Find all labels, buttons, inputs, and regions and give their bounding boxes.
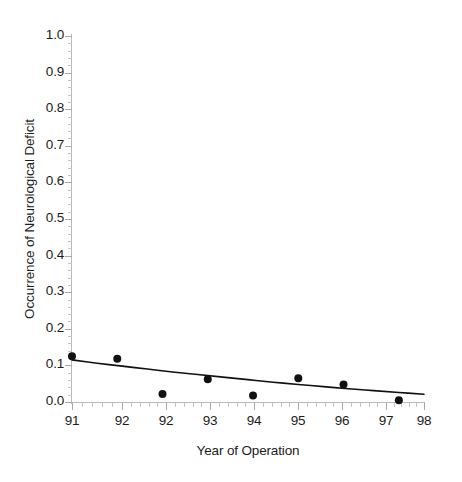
x-tick-minor [149,403,150,407]
y-tick-major [65,329,72,330]
x-tick-minor [289,403,290,407]
y-tick-major [65,402,72,403]
data-point [159,390,167,398]
x-tick-minor [193,403,194,407]
y-tick-major [65,256,72,257]
x-tick-minor [82,403,83,407]
data-point [249,391,257,399]
x-tick-minor [416,403,417,407]
x-tick-label: 92 [102,413,142,428]
x-tick-minor [131,403,132,407]
y-tick-major [65,365,72,366]
x-tick-minor [333,403,334,407]
data-point [68,352,76,360]
y-tick-major [65,109,72,110]
x-tick-minor [360,403,361,407]
data-point [294,374,302,382]
x-tick-minor [369,403,370,407]
x-tick-minor [140,403,141,407]
x-tick-minor [394,403,395,407]
chart-figure: 0.00.10.20.30.40.50.60.70.80.91.0 919292… [0,0,462,482]
x-tick-minor [401,403,402,407]
x-tick-minor [351,403,352,407]
x-tick-minor [409,403,410,407]
x-tick-minor [112,403,113,407]
x-tick-minor [263,403,264,407]
x-tick-major [72,403,73,410]
data-point [204,375,212,383]
x-tick-major [122,403,123,410]
x-tick-minor [102,403,103,407]
x-tick-label: 98 [404,413,444,428]
x-tick-minor [245,403,246,407]
plot-area [72,36,424,402]
x-tick-minor [237,403,238,407]
fitted-trend-curve [72,360,424,394]
x-tick-major [166,403,167,410]
x-tick-minor [92,403,93,407]
x-tick-label: 97 [366,413,406,428]
x-tick-minor [184,403,185,407]
y-tick-major [65,292,72,293]
x-tick-major [424,403,425,410]
y-tick-major [65,182,72,183]
y-axis-title: Occurrence of Neurological Deficit [22,36,44,402]
data-point [340,380,348,388]
x-tick-label: 96 [322,413,362,428]
x-tick-minor [201,403,202,407]
y-tick-major [65,73,72,74]
x-tick-label: 93 [190,413,230,428]
x-tick-minor [272,403,273,407]
x-tick-major [210,403,211,410]
x-tick-minor [219,403,220,407]
x-tick-label: 94 [234,413,274,428]
x-tick-minor [307,403,308,407]
x-tick-minor [325,403,326,407]
y-tick-major [65,146,72,147]
x-axis-line [71,402,425,403]
plot-svg [72,36,424,402]
x-tick-minor [281,403,282,407]
x-tick-major [386,403,387,410]
x-tick-minor [377,403,378,407]
x-tick-label: 91 [52,413,92,428]
x-tick-minor [228,403,229,407]
x-tick-label: 95 [278,413,318,428]
y-tick-major [65,219,72,220]
x-tick-minor [316,403,317,407]
x-tick-major [342,403,343,410]
data-point [395,396,403,404]
data-point [113,355,121,363]
x-tick-major [298,403,299,410]
x-tick-minor [175,403,176,407]
x-tick-label: 92 [146,413,186,428]
y-tick-major [65,36,72,37]
x-tick-major [254,403,255,410]
x-tick-minor [157,403,158,407]
x-axis-title: Year of Operation [72,443,424,458]
